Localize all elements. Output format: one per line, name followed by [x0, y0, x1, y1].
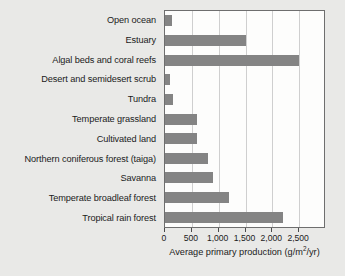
bar — [165, 212, 283, 223]
x-tick — [271, 228, 272, 232]
bar-row — [165, 148, 324, 168]
bar — [165, 114, 197, 125]
x-tick-label: 1,000 — [207, 233, 229, 243]
category-label: Temperate broadleaf forest — [0, 188, 160, 208]
bar-row — [165, 168, 324, 188]
x-tick — [298, 228, 299, 232]
x-tick — [191, 228, 192, 232]
bar — [165, 153, 208, 164]
primary-production-bar-chart: Open oceanEstuaryAlgal beds and coral re… — [0, 0, 345, 276]
bar-row — [165, 188, 324, 208]
x-tick-label: 1,500 — [234, 233, 256, 243]
category-label: Algal beds and coral reefs — [0, 50, 160, 70]
x-tick-label: 2,000 — [261, 233, 283, 243]
bar-row — [165, 31, 324, 51]
bar-row — [165, 11, 324, 31]
bar — [165, 15, 172, 26]
x-tick-label: 0 — [162, 233, 167, 243]
bar-row — [165, 50, 324, 70]
bar-row — [165, 207, 324, 227]
bar — [165, 74, 170, 85]
x-tick — [245, 228, 246, 232]
category-label: Temperate grassland — [0, 109, 160, 129]
x-tick — [218, 228, 219, 232]
bar-row — [165, 70, 324, 90]
x-tick — [164, 228, 165, 232]
bar — [165, 94, 173, 105]
x-tick-label: 500 — [184, 233, 198, 243]
bar — [165, 55, 299, 66]
bar — [165, 133, 197, 144]
x-axis-tick-labels: 05001,0001,5002,0002,500 — [164, 233, 325, 246]
x-tick-label: 2,500 — [287, 233, 309, 243]
superscript-two: 2 — [303, 245, 307, 252]
bar — [165, 35, 246, 46]
category-label: Desert and semidesert scrub — [0, 69, 160, 89]
bar-row — [165, 109, 324, 129]
bar — [165, 192, 229, 203]
category-label: Tundra — [0, 89, 160, 109]
bar-series — [165, 11, 324, 227]
category-label: Cultivated land — [0, 129, 160, 149]
category-label: Savanna — [0, 169, 160, 189]
bar-row — [165, 90, 324, 110]
plot-area — [164, 10, 325, 228]
category-label: Tropical rain forest — [0, 208, 160, 228]
bar — [165, 172, 213, 183]
bar-row — [165, 129, 324, 149]
x-axis-title: Average primary production (g/m2/yr) — [164, 247, 325, 257]
category-label: Estuary — [0, 30, 160, 50]
category-axis-labels: Open oceanEstuaryAlgal beds and coral re… — [0, 10, 160, 228]
category-label: Open ocean — [0, 10, 160, 30]
category-label: Northern coniferous forest (taiga) — [0, 149, 160, 169]
